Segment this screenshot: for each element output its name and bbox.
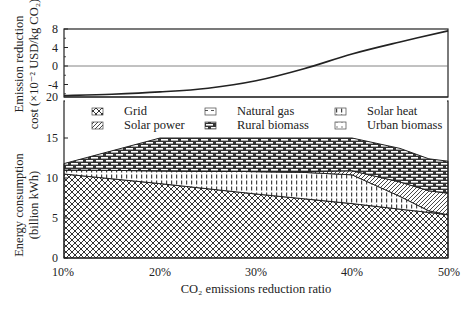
cost-y-tick-label: 8: [52, 22, 58, 36]
x-tick-label: 40%: [341, 265, 363, 279]
energy-y-tick-label: 15: [46, 131, 58, 145]
legend: GridNatural gasSolar heatSolar powerRura…: [65, 98, 447, 132]
legend-label: Rural biomass: [237, 118, 309, 132]
cost-panel-frame: [64, 29, 448, 97]
x-tick-label: 10%: [52, 265, 74, 279]
cost-y-tick-label: 0: [52, 59, 58, 73]
x-tick-label: 20%: [149, 265, 171, 279]
legend-label: Solar heat: [367, 104, 418, 118]
legend-swatch-natural-gas: [205, 108, 216, 115]
energy-y-tick-label: 5: [52, 211, 58, 225]
cost-panel: 840-4 20: [46, 22, 448, 104]
legend-label: Solar power: [124, 118, 186, 132]
x-tick-label: 30%: [245, 265, 267, 279]
x-tick-label: 50%: [438, 265, 460, 279]
energy-panel: 05101510%20%30%40%50% GridNatural gasSol…: [46, 98, 460, 279]
x-axis-label: CO₂ emissions reduction ratio: [181, 282, 332, 296]
energy-y-tick-label: 10: [46, 171, 58, 185]
energy-y-tick-label: 0: [52, 251, 58, 265]
bottom-y-axis-label-line1: Energy consumption: [12, 152, 26, 256]
legend-swatch-urban-biomass: [335, 122, 346, 129]
cost-y-tick-label: 4: [52, 41, 58, 55]
top-y-axis-label-line2: cost (×10⁻² USD/kg CO₂): [27, 0, 41, 129]
legend-label: Natural gas: [237, 104, 294, 118]
bottom-y-axis-label-line2: (billion kWh): [27, 171, 41, 239]
legend-swatch-solar-heat: [335, 108, 346, 115]
chart: 840-4 20 05101510%20%30%40%50% GridNatur…: [0, 0, 476, 312]
top-y-axis-label-line1: Emission reduction: [12, 15, 26, 113]
legend-swatch-solar-power: [92, 122, 103, 129]
legend-swatch-grid: [92, 108, 103, 115]
legend-label: Urban biomass: [367, 118, 442, 132]
legend-label: Grid: [124, 104, 148, 118]
axis-break-label: 20: [46, 90, 58, 104]
cost-series-line: [64, 31, 448, 96]
legend-swatch-rural-biomass: [205, 122, 216, 129]
